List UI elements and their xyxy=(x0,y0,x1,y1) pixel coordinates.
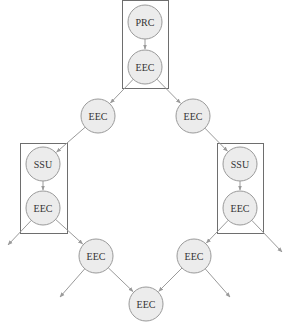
diagram-canvas: PRCEECEECEECSSUEECSSUEECEECEECEEC xyxy=(0,0,293,335)
nodes: PRCEECEECEECSSUEECSSUEECEECEECEEC xyxy=(26,5,257,321)
node-eec2r: EEC xyxy=(176,99,210,133)
node-label: EEC xyxy=(87,251,106,262)
node-label: EEC xyxy=(185,251,204,262)
node-label: EEC xyxy=(136,62,155,73)
edge-eec_r-to-down-right xyxy=(252,220,282,252)
node-ssu_l: SSU xyxy=(26,147,60,181)
node-eec_r: EEC xyxy=(223,191,257,225)
node-ssu_r: SSU xyxy=(223,147,257,181)
node-label: EEC xyxy=(89,111,108,122)
node-label: EEC xyxy=(184,111,203,122)
node-label: PRC xyxy=(136,17,155,28)
node-eec1: EEC xyxy=(128,50,162,84)
edge-eec3r-to-down-right xyxy=(205,269,230,297)
node-eec3r: EEC xyxy=(177,239,211,273)
node-label: SSU xyxy=(34,159,53,170)
edge-eec2l-to-ssu_l xyxy=(57,127,86,152)
node-eec2l: EEC xyxy=(81,99,115,133)
node-eec3l: EEC xyxy=(79,239,113,273)
edge-eec1-to-eec2l xyxy=(110,79,133,103)
edge-eec3r-to-eec4 xyxy=(159,268,182,291)
edge-eec_l-to-eec3l xyxy=(56,219,83,244)
node-prc: PRC xyxy=(128,5,162,39)
edge-eec_l-to-down-left xyxy=(8,220,31,245)
node-label: EEC xyxy=(137,299,156,310)
edge-eec2r-to-ssu_r xyxy=(205,128,228,151)
node-label: SSU xyxy=(231,159,250,170)
edge-eec3l-to-down-left xyxy=(60,269,85,297)
node-eec_l: EEC xyxy=(26,191,60,225)
edge-eec3l-to-eec4 xyxy=(108,268,133,292)
node-eec4: EEC xyxy=(129,287,163,321)
node-label: EEC xyxy=(231,203,250,214)
node-label: EEC xyxy=(34,203,53,214)
